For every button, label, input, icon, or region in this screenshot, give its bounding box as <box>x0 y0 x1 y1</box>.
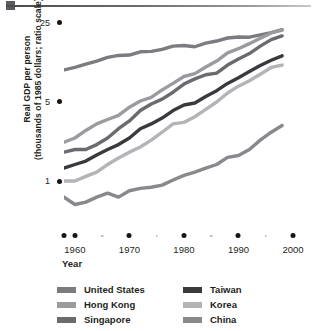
legend-label: Taiwan <box>210 284 242 295</box>
legend-label: Korea <box>210 299 237 310</box>
legend-label: Singapore <box>84 314 130 325</box>
y-tick-marker <box>57 20 62 25</box>
legend-item-china[interactable]: China <box>183 313 242 326</box>
x-tick-marker-1970 <box>127 233 132 238</box>
x-tick-marker-1980 <box>181 233 186 238</box>
x-tick-marker-1960 <box>72 233 77 238</box>
legend-swatch-icon <box>57 317 76 323</box>
legend-item-singapore[interactable]: Singapore <box>57 313 145 326</box>
y-tick-1: 1 <box>0 175 64 187</box>
legend-swatch-icon <box>57 287 76 293</box>
x-axis-ticks <box>64 230 293 244</box>
header-rule <box>0 3 317 7</box>
legend-column-2: TaiwanKoreaChina <box>183 283 242 328</box>
y-axis-title-line1: Real GDP per person <box>22 36 32 123</box>
y-tick-marker <box>57 179 62 184</box>
x-minor-tick-marker-1985 <box>210 235 213 238</box>
x-tick-label-1980: 1980 <box>173 244 194 256</box>
y-tick-label: 5 <box>28 96 50 108</box>
legend-item-taiwan[interactable]: Taiwan <box>183 283 242 296</box>
legend-swatch-icon <box>183 317 202 323</box>
legend-swatch-icon <box>183 287 202 293</box>
x-axis-tick-labels: 19601970198019902000 <box>44 244 317 258</box>
x-tick-label-1990: 1990 <box>228 244 249 256</box>
x-axis-origin-marker <box>62 233 67 238</box>
rule-line <box>6 5 311 7</box>
x-tick-label-1970: 1970 <box>119 244 140 256</box>
x-tick-marker-1990 <box>236 233 241 238</box>
x-tick-label-2000: 2000 <box>282 244 303 256</box>
y-tick-5: 5 <box>0 96 64 108</box>
legend-item-united-states[interactable]: United States <box>57 283 145 296</box>
legend-item-hong-kong[interactable]: Hong Kong <box>57 298 145 311</box>
series-line-united-states <box>64 30 282 70</box>
legend-label: Hong Kong <box>84 299 135 310</box>
x-tick-marker-2000 <box>291 233 296 238</box>
plot-area <box>64 14 293 226</box>
legend-label: China <box>210 314 236 325</box>
series-line-singapore <box>64 36 282 152</box>
legend-swatch-icon <box>57 302 76 308</box>
legend-label: United States <box>84 284 145 295</box>
legend-swatch-icon <box>183 302 202 308</box>
legend-column-1: United StatesHong KongSingapore <box>57 283 145 328</box>
y-tick-25: 25 <box>0 17 64 29</box>
x-minor-tick-marker-1995 <box>264 235 267 238</box>
x-minor-tick-marker-1965 <box>101 235 104 238</box>
y-tick-label: 1 <box>28 175 50 187</box>
legend-item-korea[interactable]: Korea <box>183 298 242 311</box>
x-tick-label-1960: 1960 <box>64 244 85 256</box>
y-tick-marker <box>57 99 62 104</box>
series-line-china <box>64 125 282 204</box>
x-axis-title: Year <box>62 258 82 269</box>
series-canvas <box>64 14 293 226</box>
y-tick-label: 25 <box>28 17 50 29</box>
x-minor-tick-marker-1975 <box>155 235 158 238</box>
